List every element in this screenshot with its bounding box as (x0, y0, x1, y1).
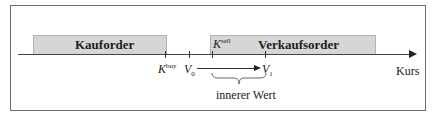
brace-label: innerer Wert (216, 88, 276, 103)
buy-order-label: Kauforder (75, 37, 134, 53)
label-k-sell: Ksell (213, 37, 231, 52)
tick-v0 (189, 51, 190, 58)
axis-arrowhead-icon (409, 50, 417, 58)
brace-icon (210, 72, 268, 86)
tick-k-buy (165, 51, 166, 58)
axis-label: Kurs (396, 64, 419, 79)
sell-order-label: Verkaufsorder (258, 37, 339, 53)
value-arrowhead-icon (254, 65, 261, 71)
tick-v1 (265, 51, 266, 58)
label-v0: V0 (184, 62, 195, 78)
label-k-buy: Kbuy (158, 62, 177, 77)
value-change-arrow (197, 68, 255, 69)
tick-k-sell (212, 51, 213, 58)
price-axis (18, 54, 411, 55)
